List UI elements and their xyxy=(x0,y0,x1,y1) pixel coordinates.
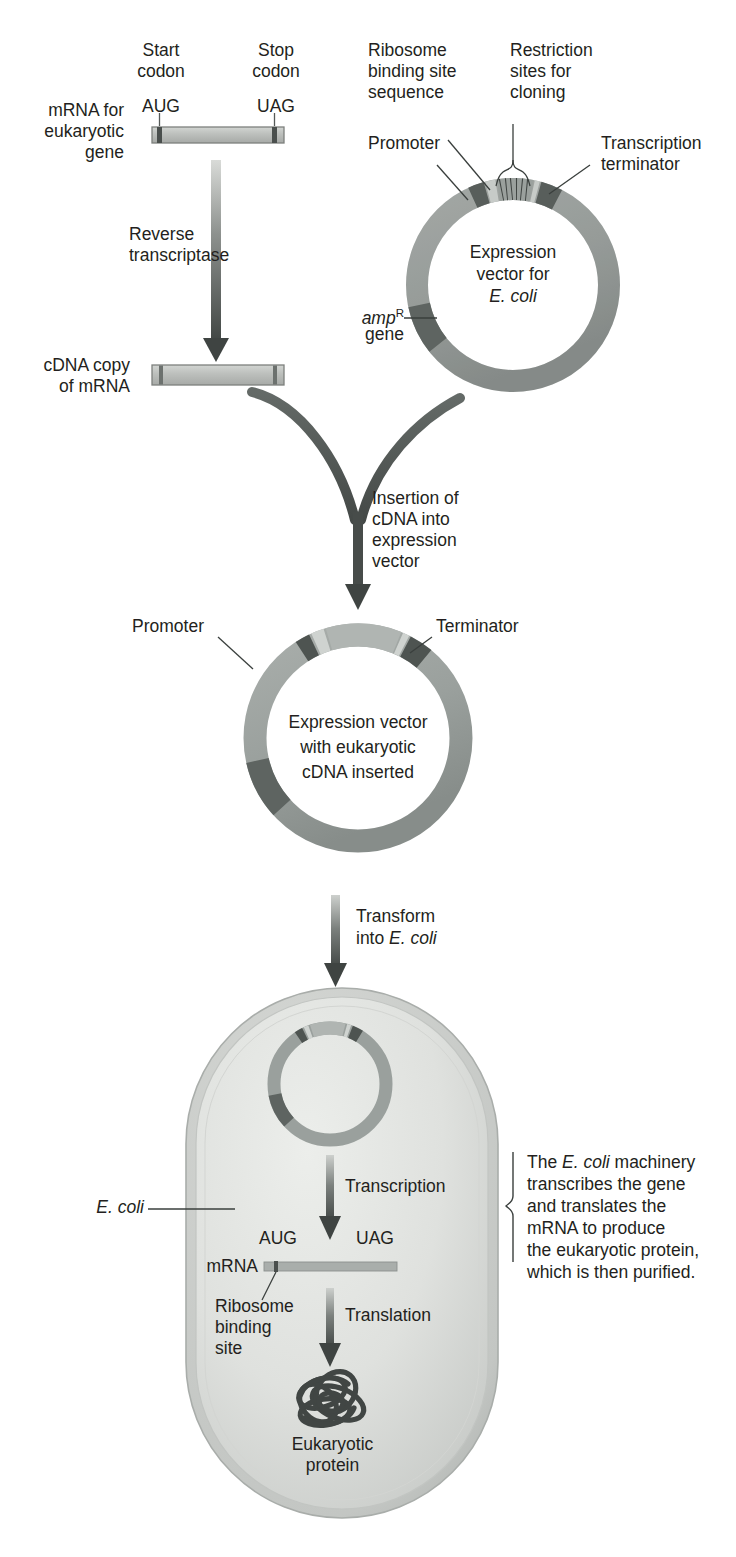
annotation-line1: The E. coli machinery xyxy=(527,1152,736,1173)
vector-mid-center-line3: cDNA inserted xyxy=(248,762,468,783)
annotation-line2: transcribes the gene xyxy=(527,1174,736,1195)
cell-stop-codon: UAG xyxy=(340,1228,410,1249)
transform-ecoli-italic: E. coli xyxy=(389,928,437,948)
vector-top-center-line1: Expression xyxy=(443,242,583,263)
vector-mid-center-line1: Expression vector xyxy=(248,712,468,733)
annotation-brace xyxy=(506,1152,513,1262)
vector-top-center-line2: vector for xyxy=(443,264,583,285)
cell-start-codon: AUG xyxy=(243,1228,313,1249)
insertion-label: Insertion of cDNA into expression vector xyxy=(372,488,532,572)
vector-top-center-line3: E. coli xyxy=(443,286,583,307)
restriction-sites-label: Restriction sites for cloning xyxy=(510,40,630,103)
stop-codon-label: Stop codon xyxy=(233,40,319,82)
figure-canvas: mRNA for eukaryotic gene Start codon AUG… xyxy=(0,0,736,1557)
cdna-bar xyxy=(152,365,284,385)
transform-label-line2: into E. coli xyxy=(356,928,437,949)
ecoli-cell-label: E. coli xyxy=(48,1197,144,1218)
ribosome-binding-site-sequence-label: Ribosome binding site sequence xyxy=(368,40,498,103)
cdna-copy-label: cDNA copy of mRNA xyxy=(6,355,130,397)
mrna-bar-top xyxy=(152,113,284,143)
translation-label: Translation xyxy=(345,1305,431,1326)
transcription-label: Transcription xyxy=(345,1176,446,1197)
ribosome-binding-site-label: Ribosome binding site xyxy=(215,1296,335,1359)
start-codon-label: Start codon xyxy=(118,40,204,82)
terminator-label-mid: Terminator xyxy=(436,616,519,637)
annotation-line4: mRNA to produce xyxy=(527,1218,736,1239)
vector-mid-center-line2: with eukaryotic xyxy=(248,737,468,758)
annotation-line5: the eukaryotic protein, xyxy=(527,1240,736,1261)
annotation-line1-italic: E. coli xyxy=(562,1152,610,1172)
promoter-label-top: Promoter xyxy=(368,133,440,154)
promoter-label-mid: Promoter xyxy=(132,616,204,637)
annotation-line3: and translates the xyxy=(527,1196,736,1217)
transform-arrow xyxy=(324,895,347,987)
transform-into-text: into xyxy=(356,928,389,948)
annotation-line6: which is then purified. xyxy=(527,1262,736,1283)
transcription-terminator-label: Transcription terminator xyxy=(601,133,731,175)
mrna-eukaryotic-gene-label: mRNA for eukaryotic gene xyxy=(14,100,124,163)
amp-gene-label-second-line: gene xyxy=(300,324,404,345)
stop-codon-value: UAG xyxy=(233,96,319,117)
eukaryotic-protein-label: Eukaryotic protein xyxy=(250,1434,415,1476)
amp-gene-superscript: R xyxy=(396,307,404,319)
transform-label-line1: Transform xyxy=(356,906,435,927)
cell-mrna-label: mRNA xyxy=(178,1256,258,1277)
start-codon-value: AUG xyxy=(118,96,204,117)
annotation-line1-suffix: machinery xyxy=(610,1152,696,1172)
reverse-transcriptase-label: Reverse transcriptase xyxy=(129,224,269,266)
annotation-line1-prefix: The xyxy=(527,1152,562,1172)
